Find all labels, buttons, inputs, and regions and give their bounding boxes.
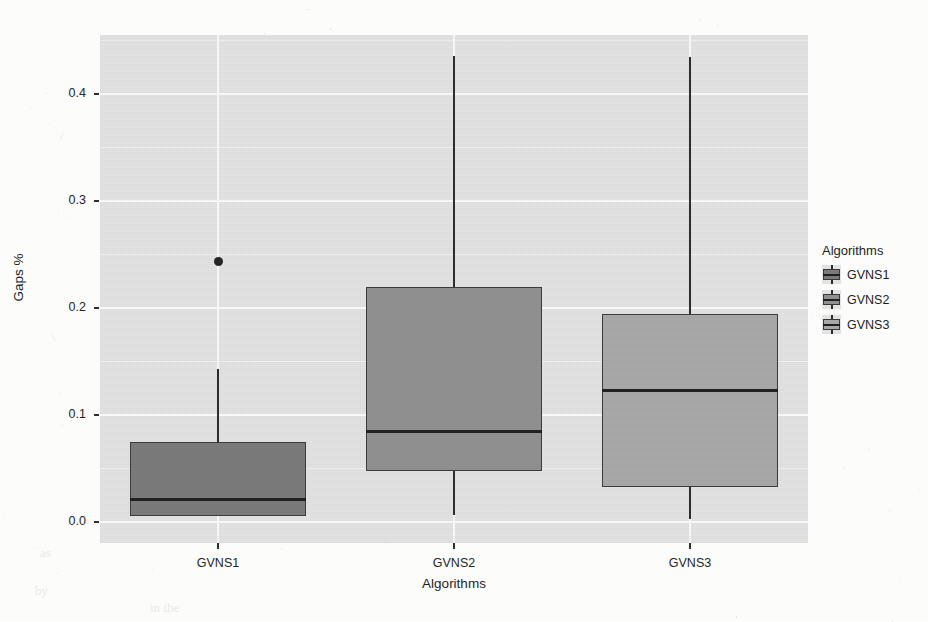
median-line bbox=[602, 389, 778, 392]
median-line bbox=[130, 498, 306, 501]
whisker-upper bbox=[689, 57, 691, 314]
x-tick-mark bbox=[689, 543, 691, 549]
legend-rows: GVNS1GVNS2GVNS3 bbox=[822, 265, 926, 334]
plot-panel bbox=[100, 35, 808, 543]
legend-label: GVNS2 bbox=[847, 293, 889, 307]
x-axis-title: Algorithms bbox=[100, 576, 808, 591]
whisker-upper bbox=[453, 56, 455, 287]
whisker-lower bbox=[689, 487, 691, 519]
x-tick-mark bbox=[453, 543, 455, 549]
legend-title: Algorithms bbox=[822, 243, 926, 258]
legend-item-gvns3[interactable]: GVNS3 bbox=[822, 315, 926, 334]
y-tick-mark bbox=[94, 414, 99, 416]
whisker-lower bbox=[453, 471, 455, 515]
legend-item-gvns1[interactable]: GVNS1 bbox=[822, 265, 926, 284]
y-tick-label: 0.4 bbox=[69, 86, 86, 100]
y-tick-label: 0.2 bbox=[69, 300, 86, 314]
x-tick-label-gvns3: GVNS3 bbox=[669, 556, 711, 570]
y-tick-mark bbox=[94, 93, 99, 95]
x-tick-label-gvns1: GVNS1 bbox=[197, 556, 239, 570]
legend-item-gvns2[interactable]: GVNS2 bbox=[822, 290, 926, 309]
whisker-upper bbox=[217, 369, 219, 443]
median-line bbox=[366, 430, 542, 433]
x-tick-label-gvns2: GVNS2 bbox=[433, 556, 475, 570]
boxplot-gvns1[interactable] bbox=[130, 35, 306, 543]
box-iqr[interactable] bbox=[130, 442, 306, 516]
y-tick-label: 0.3 bbox=[69, 193, 86, 207]
y-tick-mark bbox=[94, 521, 99, 523]
y-axis-title: Gaps % bbox=[11, 253, 26, 301]
legend-key-icon bbox=[822, 265, 841, 284]
boxplot-gvns3[interactable] bbox=[602, 35, 778, 543]
legend-key-icon bbox=[822, 290, 841, 309]
y-tick-label: 0.0 bbox=[69, 514, 86, 528]
legend-label: GVNS1 bbox=[847, 268, 889, 282]
y-tick-mark bbox=[94, 200, 99, 202]
legend-label: GVNS3 bbox=[847, 318, 889, 332]
x-tick-mark bbox=[217, 543, 219, 549]
legend: Algorithms GVNS1GVNS2GVNS3 bbox=[822, 243, 926, 340]
boxplot-gvns2[interactable] bbox=[366, 35, 542, 543]
outlier-point[interactable] bbox=[214, 257, 223, 266]
box-iqr[interactable] bbox=[602, 314, 778, 487]
box-iqr[interactable] bbox=[366, 287, 542, 471]
y-tick-mark bbox=[94, 307, 99, 309]
y-tick-label: 0.1 bbox=[69, 407, 86, 421]
legend-key-icon bbox=[822, 315, 841, 334]
